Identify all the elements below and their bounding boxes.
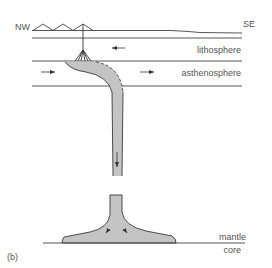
subduction-slab-diagram: NW SE lithosphere asthenosphere mantle c… (0, 0, 272, 268)
panel-label: (b) (7, 252, 18, 262)
mantle-label: mantle (219, 232, 246, 242)
magma-feeder-icon (75, 24, 91, 61)
surface-line (32, 31, 242, 34)
asthenosphere-label: asthenosphere (181, 68, 241, 78)
lithosphere-label: lithosphere (197, 45, 241, 55)
plume-head (62, 195, 176, 243)
subducting-slab-upper (65, 62, 123, 177)
core-label: core (223, 245, 241, 255)
nw-label: NW (15, 22, 30, 32)
mountain-range-icon (33, 24, 93, 31)
se-label: SE (243, 19, 255, 29)
